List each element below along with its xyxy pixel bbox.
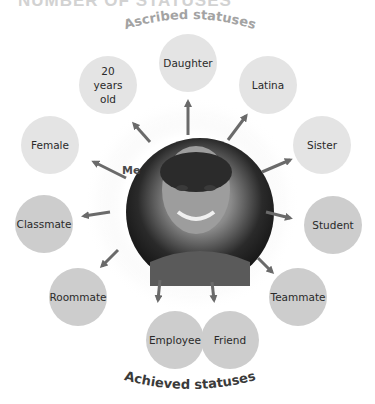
status-node-20-years-old: 20 years old: [79, 56, 137, 114]
status-label: 20 years old: [86, 64, 130, 106]
status-label: Daughter: [163, 56, 212, 70]
status-label: Employee: [149, 333, 201, 347]
status-node-roommate: Roommate: [49, 268, 107, 326]
status-label: Teammate: [271, 290, 326, 304]
status-node-sister: Sister: [293, 116, 351, 174]
status-label: Classmate: [17, 217, 72, 231]
status-label: Friend: [214, 333, 246, 347]
center-me-label: Me: [122, 164, 140, 177]
achieved-heading: Achieved statuses: [123, 368, 257, 392]
status-diagram: NUMBER OF STATUSES: [0, 0, 375, 404]
status-node-friend: Friend: [201, 311, 259, 369]
status-node-student: Student: [304, 196, 362, 254]
status-node-daughter: Daughter: [159, 34, 217, 92]
status-node-teammate: Teammate: [269, 268, 327, 326]
status-label: Latina: [252, 78, 284, 92]
status-node-classmate: Classmate: [15, 195, 73, 253]
status-label: Student: [312, 218, 353, 232]
ascribed-heading: Ascribed statuses: [122, 7, 258, 32]
status-label: Female: [31, 138, 69, 152]
status-node-employee: Employee: [146, 311, 204, 369]
status-label: Roommate: [49, 290, 106, 304]
status-node-female: Female: [21, 116, 79, 174]
status-label: Sister: [307, 138, 337, 152]
portrait-photo: [126, 138, 274, 286]
status-node-latina: Latina: [239, 56, 297, 114]
